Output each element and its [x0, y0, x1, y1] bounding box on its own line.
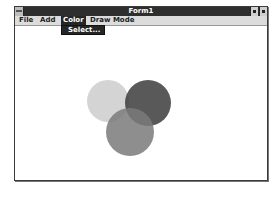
circles-drawing	[0, 0, 279, 216]
medium-circle	[106, 108, 154, 156]
